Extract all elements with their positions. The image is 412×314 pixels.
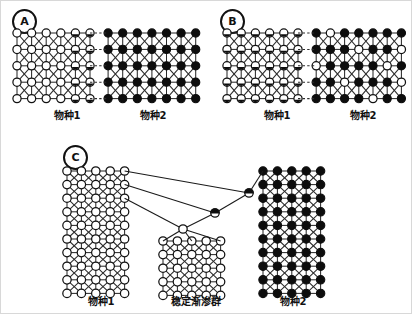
node-species2	[119, 45, 127, 53]
node-species1	[42, 95, 50, 103]
node-species1	[202, 278, 210, 286]
node-species1	[63, 208, 71, 216]
node-species2	[273, 248, 281, 256]
node-species1	[397, 45, 405, 53]
node-species2	[383, 78, 391, 86]
node-species1	[77, 167, 85, 175]
node-species2	[259, 208, 267, 216]
hybrid-node-3	[179, 225, 187, 233]
node-species2	[273, 208, 281, 216]
node-species1	[120, 235, 128, 243]
node-species2	[383, 45, 391, 53]
panel-a-lattices	[13, 29, 213, 109]
node-species2	[119, 29, 127, 37]
node-species1	[42, 62, 50, 70]
node-species2	[119, 95, 127, 103]
node-species2	[259, 262, 267, 270]
node-species1	[383, 62, 391, 70]
panel-a-species2-label: 物种2	[123, 107, 183, 122]
node-species2	[369, 45, 377, 53]
node-species1	[120, 276, 128, 284]
node-species1	[216, 264, 224, 272]
node-species1	[63, 276, 71, 284]
node-species2	[192, 78, 200, 86]
node-species1	[77, 262, 85, 270]
node-species1	[188, 278, 196, 286]
node-species1	[106, 167, 114, 175]
node-species2	[288, 235, 296, 243]
node-species1	[92, 276, 100, 284]
node-species1	[63, 262, 71, 270]
node-species1	[92, 208, 100, 216]
node-species2	[355, 78, 363, 86]
node-species2	[177, 45, 185, 53]
node-species1	[13, 29, 21, 37]
node-species2	[316, 180, 324, 188]
node-species2	[192, 62, 200, 70]
node-species1	[57, 62, 65, 70]
node-species2	[316, 248, 324, 256]
node-species1	[13, 95, 21, 103]
node-species1	[63, 221, 71, 229]
node-species1	[120, 208, 128, 216]
node-species2	[316, 276, 324, 284]
node-species1	[106, 276, 114, 284]
panel-a: A 物种1 物种2	[1, 1, 207, 131]
node-species2	[133, 78, 141, 86]
node-species2	[273, 194, 281, 202]
node-species1	[120, 180, 128, 188]
node-species2	[259, 276, 267, 284]
node-species2	[177, 29, 185, 37]
node-species1	[202, 264, 210, 272]
node-species2	[162, 45, 170, 53]
node-species2	[133, 95, 141, 103]
node-species2	[288, 221, 296, 229]
node-species2	[341, 45, 349, 53]
node-species1	[57, 78, 65, 86]
node-species1	[216, 250, 224, 258]
node-species1	[173, 264, 181, 272]
node-species1	[77, 235, 85, 243]
node-species2	[192, 95, 200, 103]
node-species2	[133, 45, 141, 53]
node-species1	[159, 278, 167, 286]
node-species1	[106, 180, 114, 188]
node-species2	[369, 78, 377, 86]
node-species1	[106, 262, 114, 270]
panel-a-species1-label: 物种1	[37, 107, 97, 122]
node-species1	[326, 29, 334, 37]
node-species2	[162, 62, 170, 70]
node-species1	[173, 278, 181, 286]
panel-b-species2-label: 物种2	[333, 107, 393, 122]
node-species1	[120, 194, 128, 202]
node-species1	[173, 237, 181, 245]
node-species2	[192, 45, 200, 53]
node-species1	[216, 278, 224, 286]
node-species2	[119, 62, 127, 70]
node-species2	[133, 62, 141, 70]
node-species1	[92, 262, 100, 270]
node-species1	[341, 78, 349, 86]
node-species1	[28, 95, 36, 103]
node-species1	[397, 78, 405, 86]
node-species2	[355, 95, 363, 103]
node-species2	[148, 29, 156, 37]
node-species2	[397, 29, 405, 37]
node-species2	[273, 167, 281, 175]
node-species2	[302, 262, 310, 270]
node-species2	[288, 276, 296, 284]
node-species2	[302, 248, 310, 256]
node-species2	[273, 262, 281, 270]
node-species2	[355, 29, 363, 37]
node-species2	[302, 180, 310, 188]
node-species1	[369, 95, 377, 103]
node-species2	[177, 95, 185, 103]
node-species2	[177, 62, 185, 70]
node-species2	[355, 62, 363, 70]
node-species2	[148, 62, 156, 70]
node-species2	[341, 95, 349, 103]
node-species2	[302, 167, 310, 175]
node-species2	[302, 194, 310, 202]
node-species1	[42, 45, 50, 53]
node-species1	[77, 276, 85, 284]
